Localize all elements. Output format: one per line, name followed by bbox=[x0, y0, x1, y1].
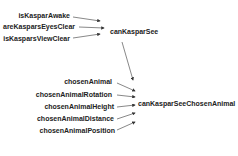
node-chosen-animal: chosenAnimal bbox=[64, 78, 112, 86]
edge-animal bbox=[117, 83, 135, 91]
node-can-kaspar-see-chosen-animal: canKasparSeeChosenAnimal bbox=[138, 100, 235, 108]
node-chosen-animal-height: chosenAnimalHeight bbox=[44, 103, 114, 111]
edge-rotation bbox=[117, 95, 135, 97]
node-chosen-animal-position: chosenAnimalPosition bbox=[40, 127, 115, 135]
node-is-kaspars-view-clear: isKasparsViewClear bbox=[3, 35, 70, 43]
edge-distance bbox=[117, 113, 135, 119]
edge-awake bbox=[73, 17, 100, 21]
node-chosen-animal-distance: chosenAnimalDistance bbox=[37, 115, 114, 123]
node-are-kaspars-eyes-clear: areKasparsEyesClear bbox=[3, 23, 75, 31]
edge-eyes bbox=[79, 27, 104, 28]
node-can-kaspar-see: canKasparSee bbox=[110, 28, 158, 36]
edge-cansee bbox=[122, 42, 133, 80]
edge-height bbox=[117, 105, 135, 107]
edge-position bbox=[117, 122, 135, 130]
node-is-kaspar-awake: isKasparAwake bbox=[18, 12, 70, 20]
node-chosen-animal-rotation: chosenAnimalRotation bbox=[36, 91, 112, 99]
edge-view bbox=[73, 34, 100, 38]
